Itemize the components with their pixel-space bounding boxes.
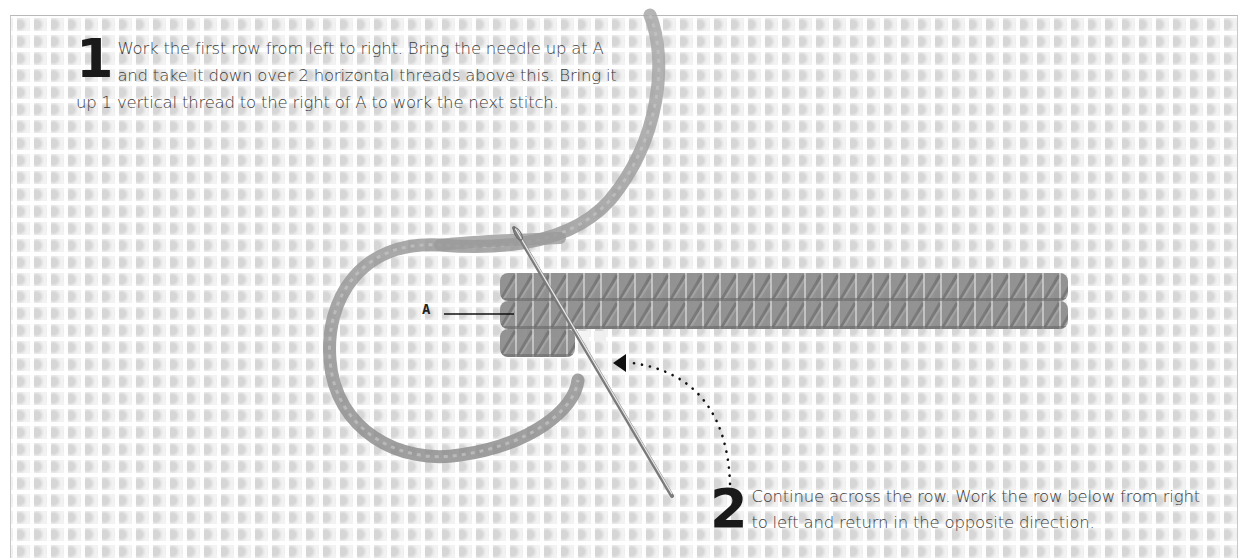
tent-stitch-rows (500, 273, 1068, 357)
point-a-label: A (422, 301, 430, 317)
step-1-instruction: 1 Work the first row from left to right.… (76, 35, 636, 116)
step-2-text: Continue across the row. Work the row be… (751, 487, 1200, 532)
step-2-number: 2 (710, 487, 747, 530)
step-1-number: 1 (76, 37, 113, 80)
step-2-instruction: 2 Continue across the row. Work the row … (710, 484, 1210, 536)
needle-icon (512, 226, 672, 496)
dotted-arrow-icon (613, 354, 730, 484)
step-1-text: Work the first row from left to right. B… (76, 39, 617, 112)
